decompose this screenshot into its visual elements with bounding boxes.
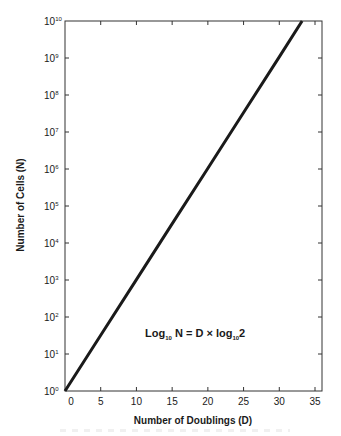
y-tick-label: 103: [44, 275, 59, 286]
x-tick-label: 10: [131, 396, 143, 407]
y-axis-title: Number of Cells (N): [15, 158, 26, 251]
x-tick-label: 25: [238, 396, 250, 407]
x-tick-label: 30: [274, 396, 286, 407]
y-tick-label: 1010: [44, 16, 62, 27]
y-axis-tick-labels: 1001011021031041051061071081091010: [44, 16, 62, 397]
y-tick-label: 109: [44, 53, 59, 64]
x-tick-label: 15: [167, 396, 179, 407]
y-tick-label: 106: [44, 164, 59, 175]
y-tick-label: 100: [44, 386, 59, 397]
y-tick-label: 105: [44, 201, 59, 212]
y-axis-ticks: [65, 58, 322, 354]
scan-artifact: [60, 429, 290, 432]
x-axis-title: Number of Doublings (D): [134, 415, 252, 426]
y-tick-label: 107: [44, 127, 59, 138]
y-tick-label: 102: [44, 312, 59, 323]
y-tick-label: 101: [44, 349, 59, 360]
y-tick-label: 104: [44, 238, 59, 249]
y-tick-label: 108: [44, 90, 59, 101]
x-tick-label: 35: [309, 396, 321, 407]
x-axis-tick-labels: 05101520253035: [68, 396, 321, 407]
cell-doubling-chart: 05101520253035 1001011021031041051061071…: [0, 0, 341, 436]
x-tick-label: 0: [68, 396, 74, 407]
formula-annotation: Log10 N = D × log102: [145, 327, 245, 341]
x-tick-label: 5: [98, 396, 104, 407]
x-tick-label: 20: [202, 396, 214, 407]
